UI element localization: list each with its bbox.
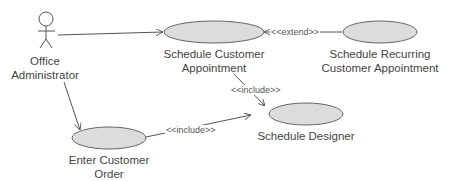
use-case-label-schedule-designer: Schedule Designer bbox=[246, 129, 366, 143]
use-case-diagram: <<extend>> <<include>> <<include>> Offic… bbox=[0, 0, 449, 181]
use-case-ellipse-schedule-customer-appointment[interactable] bbox=[164, 21, 264, 43]
use-case-ellipse-schedule-recurring[interactable] bbox=[343, 21, 417, 43]
include-label-sca-sd: <<include>> bbox=[230, 85, 282, 95]
use-case-label-enter-customer-order: Enter Customer Order bbox=[49, 153, 169, 181]
extend-label: <<extend>> bbox=[270, 27, 320, 37]
actor-icon bbox=[38, 12, 55, 48]
use-case-ellipse-schedule-designer[interactable] bbox=[269, 103, 343, 125]
actor-label: Office Administrator bbox=[2, 54, 88, 82]
use-case-ellipse-enter-customer-order[interactable] bbox=[72, 127, 146, 149]
use-case-label-schedule-recurring: Schedule Recurring Customer Appointment bbox=[315, 47, 445, 75]
use-case-label-schedule-customer-appointment: Schedule Customer Appointment bbox=[149, 47, 279, 75]
include-label-eco-sd: <<include>> bbox=[165, 125, 217, 135]
association-actor-to-enter-customer-order bbox=[64, 82, 80, 130]
association-actor-to-schedule-customer-appointment bbox=[58, 32, 163, 35]
